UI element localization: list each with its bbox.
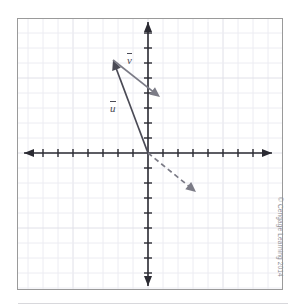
- vector-layer: [0, 0, 306, 308]
- vector-v-letter: v: [127, 55, 132, 66]
- vector-group: [112, 60, 196, 192]
- vector-v-arrowhead: [149, 87, 160, 97]
- vector-u-label: u: [110, 101, 116, 114]
- vector-u-shaft: [116, 67, 148, 153]
- copyright-credit: © Cengage Learning 2014: [277, 197, 284, 289]
- vector-u-letter: u: [110, 103, 116, 114]
- vector-resultant-arrowhead: [185, 182, 196, 192]
- bottom-divider: [18, 303, 288, 304]
- figure-root: v u © Cengage Learning 2014: [0, 0, 306, 308]
- vector-resultant-shaft: [148, 153, 190, 187]
- vector-v-label: v: [127, 53, 132, 66]
